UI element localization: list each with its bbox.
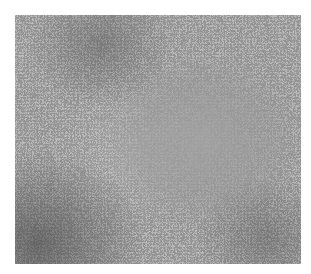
page	[0, 0, 311, 274]
histology-micrograph	[15, 15, 301, 264]
clipped-caption-text	[0, 0, 311, 3]
tissue-texture	[15, 15, 301, 264]
